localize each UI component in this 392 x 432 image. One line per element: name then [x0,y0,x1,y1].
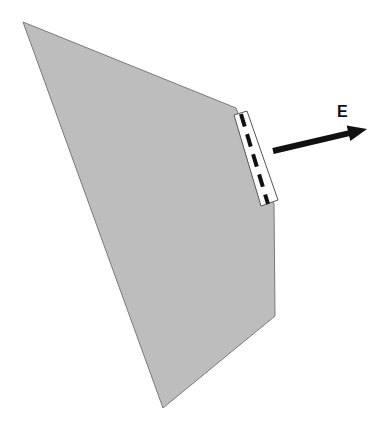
arrow-head-icon [347,126,367,142]
diagram-canvas: E [0,0,392,432]
field-label-e: E [337,103,348,120]
arrow-shaft [273,133,350,151]
field-arrow [273,126,367,151]
gray-polygon-region [23,22,275,408]
